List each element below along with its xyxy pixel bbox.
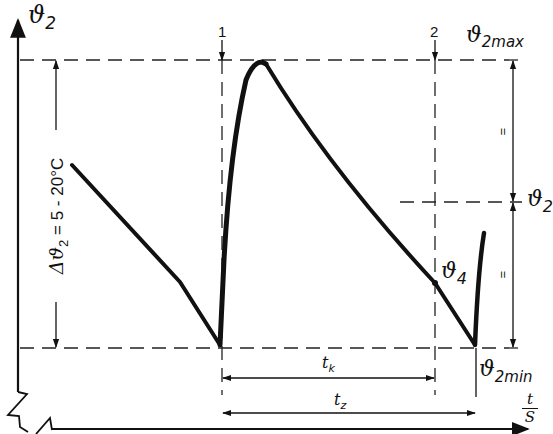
marker-1-label: 1: [218, 24, 226, 39]
x-axis-label: t S: [522, 392, 538, 425]
reference-lines: [20, 60, 522, 395]
y-axis-label: ϑ2: [28, 3, 56, 27]
delta-theta-label: Δϑ2 = 5 - 20°C: [47, 158, 66, 274]
heating-segment-1: [220, 62, 266, 345]
tz-label: tz: [334, 392, 346, 408]
heating-segment-2: [475, 233, 484, 345]
axis-break-zigzag: [8, 392, 28, 432]
lower-equal-mark: =: [497, 271, 510, 279]
tk-label: tk: [322, 355, 335, 371]
y-axis: [8, 20, 52, 434]
upper-equal-mark: =: [497, 128, 510, 136]
cooling-segment-2: [266, 64, 475, 345]
theta4-label: ϑ4: [441, 260, 467, 282]
theta2-mid-label: ϑ2: [527, 188, 553, 210]
temperature-curve: [72, 62, 484, 345]
theta4-point: [432, 280, 438, 286]
cooling-segment-1: [72, 165, 220, 345]
theta2min-label: ϑ2min: [479, 358, 533, 380]
theta2max-label: ϑ2max: [466, 24, 524, 46]
marker-2-label: 2: [430, 24, 438, 39]
